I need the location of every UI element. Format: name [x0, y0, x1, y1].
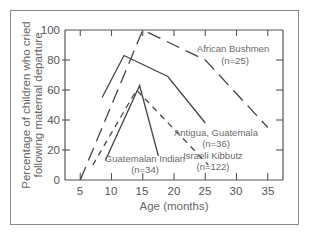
- y-tick-label: 0: [54, 174, 60, 186]
- x-tick-label: 20: [168, 185, 181, 197]
- label-israeli-kibbutz: Israeli Kibbutz: [183, 150, 243, 161]
- y-axis-title-line1: Percentage of children who cried: [20, 21, 32, 189]
- x-tick-label: 10: [105, 185, 118, 197]
- x-tick-label: 15: [136, 185, 149, 197]
- y-axis-title-line2: following maternal departure: [32, 32, 44, 177]
- y-tick-label: 80: [47, 54, 60, 66]
- x-tick-label: 35: [262, 185, 275, 197]
- y-axis-title: Percentage of children who cried followi…: [20, 21, 44, 189]
- label-guatemalan-indian: Guatemalan Indian: [105, 153, 185, 164]
- label-israeli-kibbutz-n: (n=122): [196, 161, 229, 172]
- label-african-bushmen: African Bushmen: [197, 43, 269, 54]
- x-tick-label: 5: [77, 185, 83, 197]
- x-tick-label: 30: [230, 185, 243, 197]
- label-antigua-guatemala: Antigua, Guatemala: [174, 127, 259, 138]
- x-axis-title: Age (months): [139, 200, 208, 212]
- label-african-bushmen-n: (n=25): [221, 55, 249, 66]
- chart-svg: 0 20 40 60 80 100 5 10 15 20 25 30 35 Ag…: [0, 0, 312, 238]
- y-tick-label: 20: [47, 144, 60, 156]
- label-antigua-guatemala-n: (n=36): [202, 138, 230, 149]
- x-tick-label: 25: [199, 185, 212, 197]
- series-line-antigua-guatemala: [102, 56, 205, 124]
- label-guatemalan-indian-n: (n=34): [131, 164, 159, 175]
- y-tick-label: 60: [47, 84, 60, 96]
- x-tick-labels: 5 10 15 20 25 30 35: [77, 185, 275, 197]
- y-tick-label: 40: [47, 114, 60, 126]
